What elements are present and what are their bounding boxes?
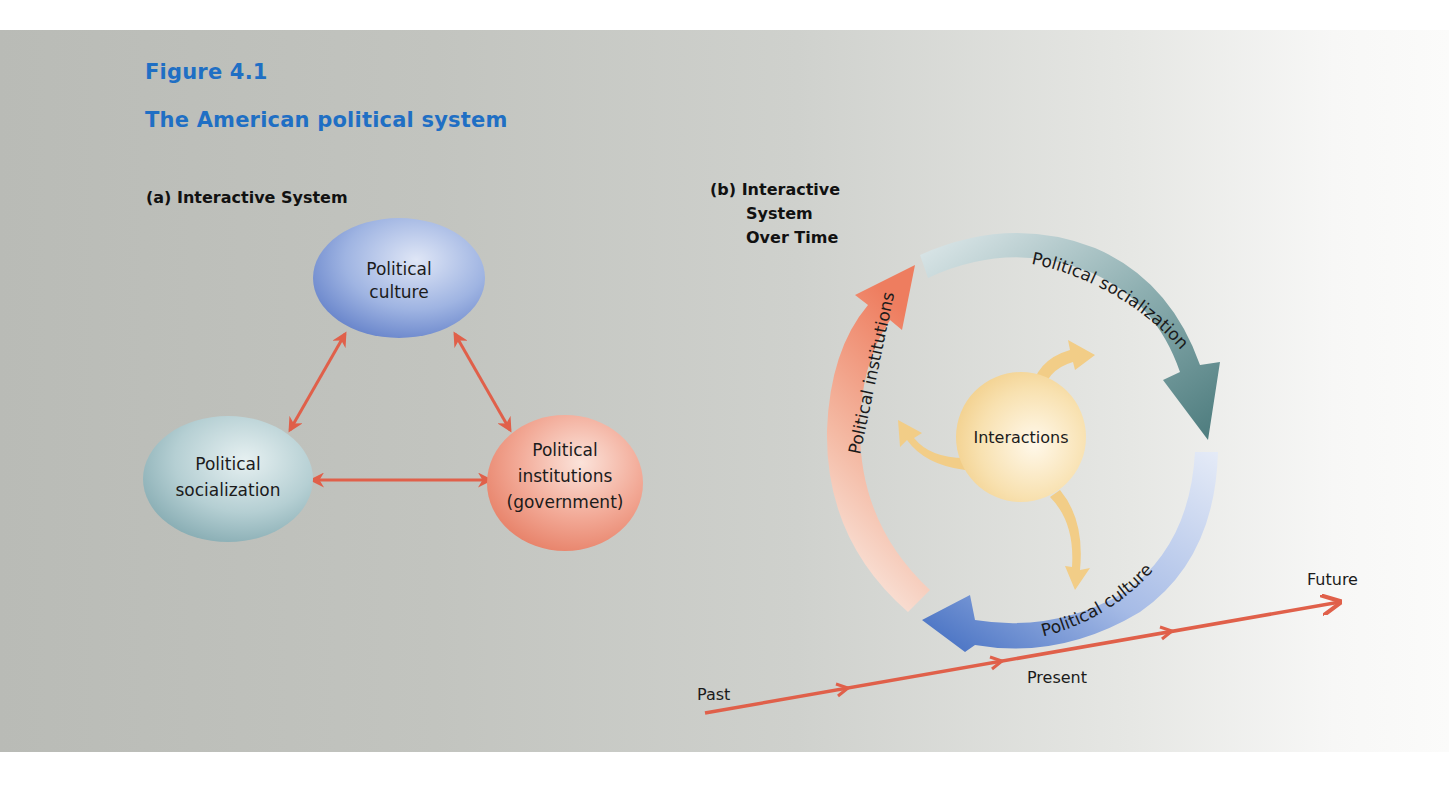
timeline-arrow [705,602,1340,713]
timeline-label-past: Past [697,685,730,704]
node-interactions: Interactions [898,340,1095,590]
svg-text:Political: Political [366,259,431,279]
part-b-diagram: Past Present Future Political socializat… [697,233,1358,713]
svg-text:institutions: institutions [518,466,613,486]
cycle-arrow-political-culture: Political culture [922,452,1218,652]
part-a-diagram: Political culture Political socializatio… [143,218,643,551]
timeline-label-future: Future [1307,570,1358,589]
svg-text:Political: Political [195,454,260,474]
cycle-arrow-political-institutions: Political institutions [827,265,930,612]
svg-text:(government): (government) [507,492,624,512]
edge-culture-institutions [455,334,510,430]
svg-text:culture: culture [369,282,428,302]
node-political-culture: Political culture [313,218,485,338]
node-political-socialization: Political socialization [143,416,313,542]
svg-text:socialization: socialization [175,480,280,500]
svg-text:Political: Political [532,440,597,460]
node-political-institutions: Political institutions (government) [487,415,643,551]
edge-culture-socialization [290,334,345,430]
diagram-canvas: Political culture Political socializatio… [0,0,1449,789]
timeline-label-present: Present [1027,668,1087,687]
svg-text:Interactions: Interactions [973,428,1068,447]
